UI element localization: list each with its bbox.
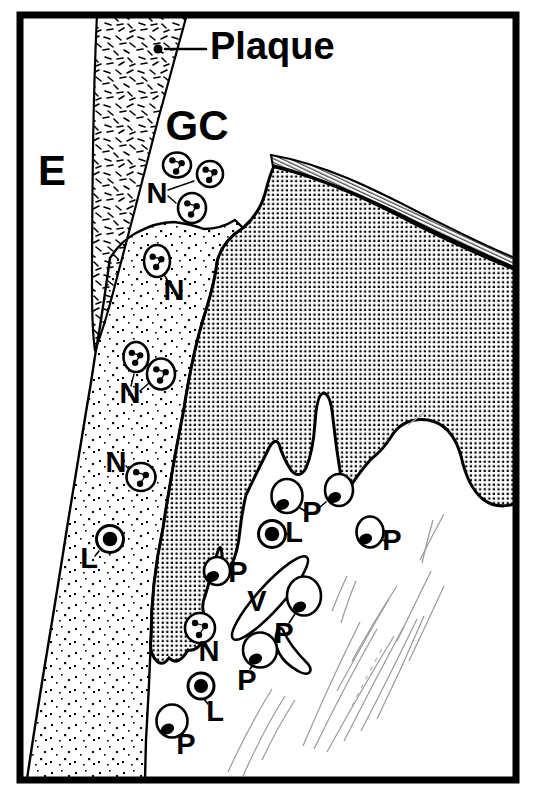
plaque-pointer-dot — [154, 45, 163, 54]
cell-L — [97, 526, 124, 553]
cell-N — [144, 245, 170, 277]
label-N: N — [147, 177, 168, 209]
cell-P — [287, 577, 321, 616]
cell-P — [325, 474, 353, 506]
label-P: P — [382, 524, 401, 556]
label-L: L — [206, 695, 224, 727]
label-P: P — [274, 617, 293, 649]
cell-N — [127, 463, 156, 491]
plaque-label: Plaque — [210, 25, 335, 67]
label-N: N — [199, 635, 220, 667]
label-P: P — [237, 664, 256, 696]
label-P: P — [176, 728, 195, 760]
label-V: V — [247, 585, 267, 617]
label-N: N — [164, 274, 185, 306]
label-L: L — [285, 516, 303, 548]
cell-N — [197, 161, 223, 187]
cell-P — [204, 557, 230, 585]
label-L: L — [80, 542, 98, 574]
cell-P — [243, 633, 277, 668]
cell-P — [272, 479, 303, 513]
label-N: N — [120, 377, 141, 409]
cell-N — [147, 359, 175, 390]
enamel-label: E — [38, 147, 66, 194]
cell-N — [124, 342, 149, 372]
histology-diagram: NNNNNLLLPPPPPPV E GC Plaque — [0, 0, 537, 798]
cell-L — [259, 521, 286, 548]
cell-P — [357, 517, 384, 548]
cell-N — [163, 153, 191, 178]
figure-page: NNNNNLLLPPPPPPV E GC Plaque — [0, 0, 537, 798]
cell-N — [178, 193, 206, 223]
label-P: P — [302, 496, 321, 528]
label-N: N — [106, 446, 127, 478]
gingival-crevice-label: GC — [166, 102, 229, 149]
label-P: P — [228, 556, 247, 588]
